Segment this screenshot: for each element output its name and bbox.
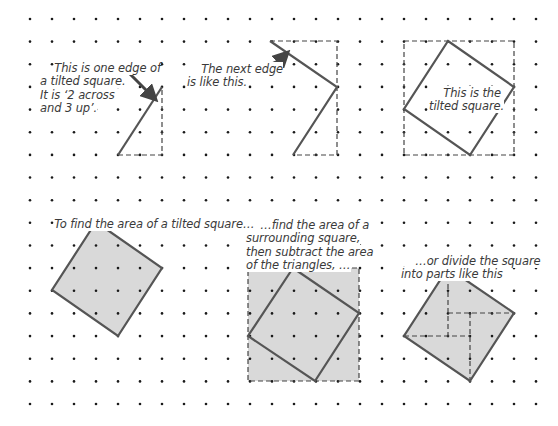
grid-dot (315, 176, 318, 179)
grid-dot (425, 176, 428, 179)
grid-dot (73, 403, 76, 406)
grid-dot (293, 290, 296, 293)
grid-dot (359, 403, 362, 406)
grid-dot (73, 312, 76, 315)
grid-dot (51, 267, 54, 270)
grid-dot (249, 403, 252, 406)
grid-dot (469, 222, 472, 225)
grid-dot (183, 131, 186, 134)
grid-dot (535, 222, 538, 225)
grid-dot (403, 154, 406, 157)
grid-dot (249, 108, 252, 111)
grid-dot (447, 176, 450, 179)
grid-dot (513, 18, 516, 21)
grid-dot (425, 358, 428, 361)
grid-dot (51, 312, 54, 315)
grid-dot (425, 403, 428, 406)
grid-dot (403, 199, 406, 202)
grid-dot (183, 335, 186, 338)
grid-dot (381, 86, 384, 89)
grid-dot (359, 86, 362, 89)
grid-dot (29, 312, 32, 315)
note-find-area: To find the area of a tilted square… (40, 204, 254, 245)
grid-dot (161, 199, 164, 202)
grid-dot (117, 176, 120, 179)
grid-dot (447, 199, 450, 202)
grid-dot (293, 131, 296, 134)
grid-dot (447, 358, 450, 361)
grid-dot (425, 380, 428, 383)
grid-dot (227, 290, 230, 293)
grid-dot (95, 199, 98, 202)
grid-dot (205, 380, 208, 383)
grid-dot (183, 63, 186, 66)
grid-dot (359, 63, 362, 66)
grid-dot (403, 18, 406, 21)
grid-dot (359, 154, 362, 157)
grid-dot (29, 18, 32, 21)
grid-dot (139, 335, 142, 338)
grid-dot (139, 131, 142, 134)
grid-dot (139, 312, 142, 315)
grid-dot (447, 131, 450, 134)
grid-dot (403, 222, 406, 225)
grid-dot (535, 108, 538, 111)
grid-dot (315, 18, 318, 21)
grid-dot (535, 18, 538, 21)
grid-dot (271, 312, 274, 315)
grid-dot (227, 40, 230, 43)
grid-dot (469, 131, 472, 134)
grid-dot (139, 290, 142, 293)
grid-dot (161, 176, 164, 179)
grid-dot (95, 176, 98, 179)
grid-dot (293, 199, 296, 202)
grid-dot (227, 154, 230, 157)
grid-dot (491, 154, 494, 157)
grid-dot (205, 267, 208, 270)
grid-dot (513, 358, 516, 361)
grid-dot (227, 131, 230, 134)
grid-dot (447, 222, 450, 225)
grid-dot (183, 403, 186, 406)
grid-dot (95, 403, 98, 406)
grid-dot (535, 403, 538, 406)
grid-dot (337, 312, 340, 315)
grid-dot (117, 18, 120, 21)
grid-dot (29, 40, 32, 43)
grid-dot (51, 199, 54, 202)
grid-dot (205, 18, 208, 21)
grid-dot (227, 312, 230, 315)
grid-dot (205, 131, 208, 134)
grid-dot (249, 154, 252, 157)
grid-dot (381, 335, 384, 338)
grid-dot (403, 312, 406, 315)
grid-dot (359, 199, 362, 202)
grid-dot (227, 199, 230, 202)
grid-dot (139, 154, 142, 157)
grid-dot (381, 358, 384, 361)
grid-dot (161, 403, 164, 406)
grid-dot (183, 380, 186, 383)
grid-dot (29, 154, 32, 157)
grid-dot (425, 199, 428, 202)
grid-dot (29, 358, 32, 361)
grid-dot (271, 199, 274, 202)
grid-dot (535, 40, 538, 43)
grid-dot (469, 176, 472, 179)
grid-dot (293, 18, 296, 21)
grid-dot (491, 380, 494, 383)
grid-dot (117, 40, 120, 43)
grid-dot (469, 199, 472, 202)
tilted-squares-worksheet: This is one edge of a tilted square. It … (0, 0, 558, 426)
grid-dot (425, 312, 428, 315)
grid-dot (183, 40, 186, 43)
grid-dot (315, 86, 318, 89)
grid-dot (73, 40, 76, 43)
grid-dot (491, 131, 494, 134)
grid-dot (381, 312, 384, 315)
grid-dot (381, 222, 384, 225)
grid-dot (447, 63, 450, 66)
grid-dot (183, 267, 186, 270)
grid-dot (315, 358, 318, 361)
grid-dot (337, 290, 340, 293)
